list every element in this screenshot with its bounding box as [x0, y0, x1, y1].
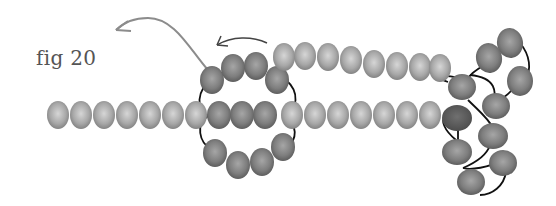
beadwork-diagram: [0, 0, 556, 206]
bottom-loop: [203, 133, 295, 179]
middle-row: [207, 101, 441, 129]
large-grey-arrow-icon: [116, 18, 208, 70]
right-cluster: [442, 26, 533, 195]
left-strand: [47, 101, 207, 129]
top-row: [273, 42, 451, 82]
small-dark-arrow-icon: [217, 36, 267, 46]
